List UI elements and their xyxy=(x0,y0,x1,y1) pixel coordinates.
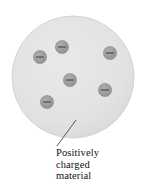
caption-line-3: material xyxy=(56,170,146,182)
electron-3 xyxy=(103,46,116,59)
caption-line-1: Positively xyxy=(56,147,146,159)
electron-6 xyxy=(40,95,53,108)
caption-positively-charged-material: Positively charged material xyxy=(56,147,146,182)
electron-2 xyxy=(55,40,68,53)
electron-5 xyxy=(98,83,111,96)
caption-line-2: charged xyxy=(56,159,146,171)
plum-pudding-atom-figure: Positively charged material xyxy=(0,0,149,183)
electron-4 xyxy=(63,73,76,86)
electron-1 xyxy=(33,50,46,63)
